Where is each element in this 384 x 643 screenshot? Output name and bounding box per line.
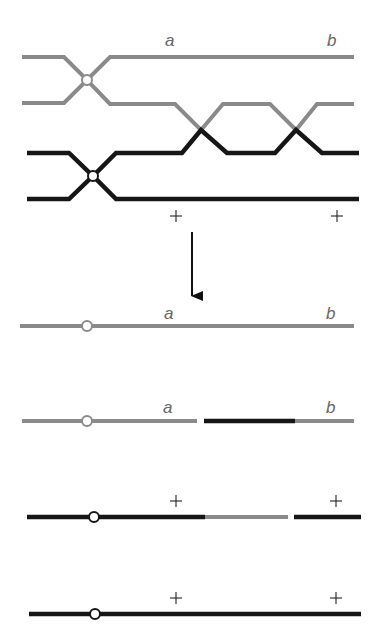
product-1: a b: [20, 304, 354, 331]
product-4: [29, 592, 361, 619]
black-chromatid-4: [27, 176, 359, 199]
centromere: [90, 609, 100, 619]
black-chromatid-3: [27, 130, 359, 176]
centromere: [82, 321, 92, 331]
plus-marker-top-2: [331, 210, 343, 222]
centromere-black: [88, 171, 98, 181]
label-a-p1: a: [164, 304, 173, 323]
centromere-gray: [82, 75, 92, 85]
plus-marker: [330, 592, 342, 604]
product-2: a b: [22, 398, 354, 426]
label-b-top: b: [327, 31, 336, 50]
centromere: [89, 512, 99, 522]
plus-marker-top-1: [170, 210, 182, 222]
top-panel: a b: [22, 31, 359, 222]
centromere: [82, 416, 92, 426]
plus-marker: [170, 592, 182, 604]
label-a-p2: a: [163, 398, 172, 417]
gray-chromatid-1: [22, 57, 354, 80]
gray-chromatid-2: [22, 80, 354, 130]
label-a-top: a: [165, 31, 174, 50]
label-b-p2: b: [326, 398, 335, 417]
crossover-diagram: a b a b a b: [0, 0, 384, 643]
plus-marker: [170, 495, 182, 507]
plus-marker: [330, 495, 342, 507]
product-3: [27, 495, 361, 522]
label-b-p1: b: [326, 304, 335, 323]
